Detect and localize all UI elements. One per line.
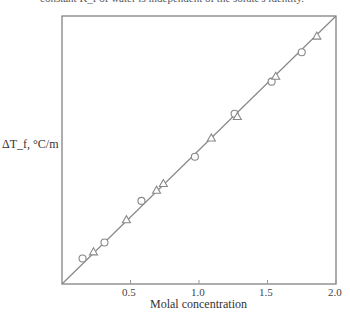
- x-tick-0-5: 0.5: [122, 286, 136, 298]
- x-axis-label: Molal concentration: [150, 297, 247, 312]
- circle-marker: [138, 197, 145, 204]
- x-tick-2-0: 2.0: [328, 286, 342, 298]
- circle-marker: [191, 153, 198, 160]
- triangle-marker: [159, 180, 167, 187]
- triangle-marker: [272, 72, 280, 79]
- triangle-marker: [122, 216, 130, 223]
- triangle-marker: [153, 186, 161, 193]
- y-axis-label: ΔT_f, °C/m: [2, 137, 59, 152]
- triangle-marker: [313, 32, 321, 39]
- x-tick-1-5: 1.5: [259, 286, 273, 298]
- circle-marker: [101, 239, 108, 246]
- circle-marker: [298, 49, 305, 56]
- circle-marker: [79, 255, 86, 262]
- triangle-marker: [90, 248, 98, 255]
- scatter-plot: [0, 0, 350, 316]
